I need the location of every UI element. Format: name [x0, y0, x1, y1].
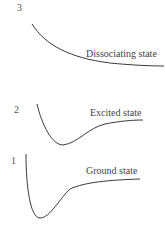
state-number-3: 3	[17, 2, 22, 13]
excited-state-label: Excited state	[90, 107, 141, 118]
state-number-1: 1	[11, 155, 16, 166]
ground-state-label: Ground state	[86, 165, 137, 176]
dissociating-state-curve	[32, 24, 164, 66]
state-number-2: 2	[14, 104, 19, 115]
ground-state-curve	[26, 154, 140, 218]
dissociating-state-label: Dissociating state	[86, 48, 157, 59]
